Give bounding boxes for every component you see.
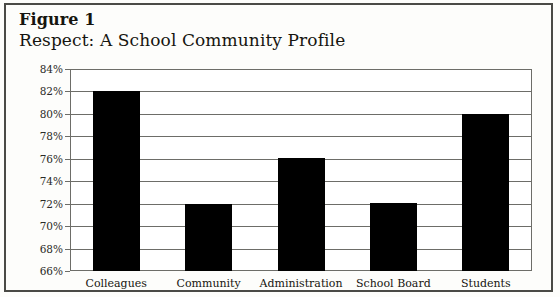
x-tick-label: Students — [461, 277, 511, 290]
y-tick-mark — [65, 136, 70, 137]
bar — [462, 114, 509, 271]
y-tick-label: 80% — [40, 108, 63, 120]
x-tick-label: Colleagues — [85, 277, 146, 290]
bar — [93, 91, 140, 271]
y-tick-mark — [65, 226, 70, 227]
x-tick-label: Administration — [259, 277, 342, 290]
y-tick-mark — [65, 91, 70, 92]
bar — [278, 158, 325, 271]
y-tick-mark — [65, 249, 70, 250]
y-tick-label: 74% — [40, 175, 63, 187]
figure-inner: Figure 1 Respect: A School Community Pro… — [6, 5, 551, 290]
y-tick-mark — [65, 271, 70, 272]
y-tick-label: 70% — [40, 220, 63, 232]
y-tick-label: 82% — [40, 85, 63, 97]
bar — [185, 204, 232, 271]
y-tick-mark — [65, 159, 70, 160]
figure-title: Respect: A School Community Profile — [19, 30, 345, 50]
figure-page: Figure 1 Respect: A School Community Pro… — [0, 0, 560, 297]
y-tick-mark — [65, 181, 70, 182]
y-tick-label: 84% — [40, 63, 63, 75]
bar — [370, 203, 417, 271]
y-tick-label: 72% — [40, 198, 63, 210]
figure-frame: Figure 1 Respect: A School Community Pro… — [4, 3, 553, 292]
x-tick-label: Community — [176, 277, 240, 290]
y-tick-mark — [65, 114, 70, 115]
y-tick-label: 78% — [40, 130, 63, 142]
x-tick-label: School Board — [356, 277, 431, 290]
y-tick-label: 66% — [40, 265, 63, 277]
y-tick-mark — [65, 204, 70, 205]
y-tick-label: 76% — [40, 153, 63, 165]
y-tick-mark — [65, 69, 70, 70]
bar-chart: 84%82%80%78%76%74%72%70%68%66% Colleague… — [70, 69, 532, 271]
y-tick-label: 68% — [40, 243, 63, 255]
figure-label: Figure 1 — [19, 10, 95, 29]
